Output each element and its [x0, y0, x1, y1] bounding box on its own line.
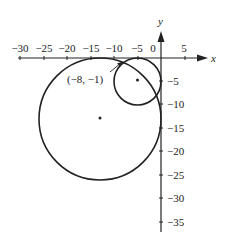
x-tick-label: −15: [82, 42, 100, 54]
diagram-canvas: x −30 −25 −20 −15 −10 −5 0 5 y: [0, 0, 230, 247]
y-tick-label: −25: [167, 169, 185, 181]
x-axis: x −30 −25 −20 −15 −10 −5 0 5: [11, 42, 216, 64]
x-axis-arrow-icon: [197, 55, 208, 62]
x-tick-label: −25: [35, 42, 53, 54]
y-tick-label: −20: [167, 145, 185, 157]
y-tick-label: −35: [167, 216, 185, 228]
y-axis-label: y: [157, 15, 163, 27]
y-tick-label: −30: [167, 192, 185, 204]
large-circle-center: [99, 117, 102, 120]
y-tick-label: −15: [167, 122, 185, 134]
x-axis-label: x: [210, 52, 216, 64]
y-axis-arrow-icon: [158, 31, 165, 42]
x-tick-label: −20: [58, 42, 76, 54]
point-label: (−8, −1): [67, 73, 104, 86]
x-tick-label: −5: [131, 42, 143, 54]
y-tick-label: −5: [167, 75, 179, 87]
x-tick-label: −30: [11, 42, 29, 54]
small-circle-center: [136, 79, 139, 82]
x-tick-label: 5: [181, 42, 187, 54]
y-tick-label: −10: [167, 98, 185, 110]
x-tick-label: −10: [105, 42, 123, 54]
x-tick-label: 0: [150, 42, 156, 54]
